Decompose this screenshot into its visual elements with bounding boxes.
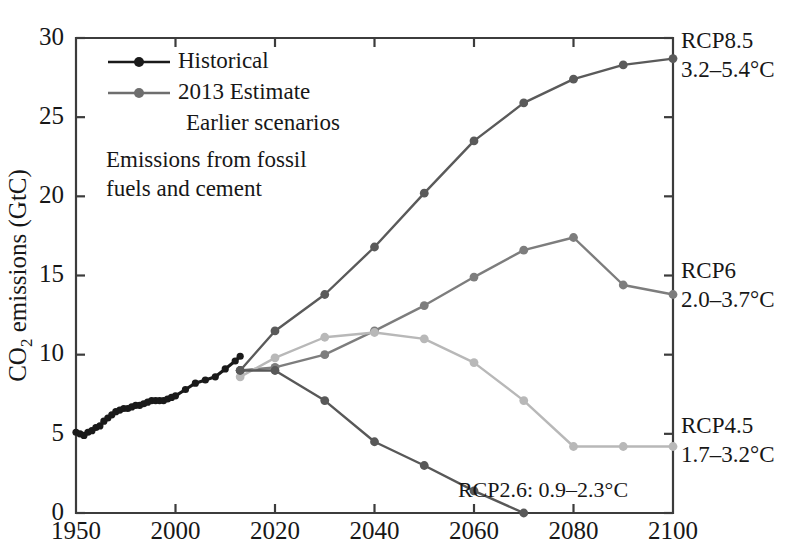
scenario-label-name: RCP4.5 [681,413,753,438]
series-historical [72,353,243,439]
data-point [420,189,429,198]
data-point [192,380,199,387]
data-point [569,233,578,242]
data-point [669,54,678,63]
data-point [669,442,678,451]
series-rcp4-5 [236,328,678,451]
data-point [619,281,628,290]
y-tick-label: 20 [39,181,64,208]
series-line [240,238,673,371]
data-point [420,461,429,470]
data-point [320,333,329,342]
annotation-emissions-source: Emissions from fossilfuels and cement [106,147,307,201]
y-axis-title: CO2 emissions (GtC) [4,169,36,382]
chart-figure: 0510152025301950200020202040206020802100… [0,0,797,554]
data-point [320,290,329,299]
legend-label: 2013 Estimate [178,79,310,104]
co2-emissions-line-chart: 0510152025301950200020202040206020802100… [0,0,797,554]
legend-label: Earlier scenarios [186,110,340,135]
scenario-label-range: 1.7–3.2°C [681,442,775,467]
series-group [72,54,677,517]
y-axis: 051015202530 [39,23,673,525]
data-point [236,366,245,375]
data-point [569,442,578,451]
x-tick-label: 2000 [151,517,201,544]
data-point [619,442,628,451]
y-tick-label: 30 [39,23,64,50]
x-axis: 1950200020202040206020802100 [51,38,698,544]
data-point [182,386,189,393]
x-tick-label: 2040 [350,517,400,544]
annotation-line-1: Emissions from fossil [106,147,307,172]
data-point [519,246,528,255]
data-point [212,373,219,380]
data-point [320,350,329,359]
data-point [470,273,479,282]
scenario-label-range: 2.0–3.7°C [681,287,775,312]
annotation-line-2: fuels and cement [106,176,262,201]
data-point [669,290,678,299]
data-point [519,396,528,405]
scenario-labels: RCP8.53.2–5.4°CRCP62.0–3.7°CRCP4.51.7–3.… [681,28,775,467]
data-point [569,75,578,84]
legend-label: Historical [178,48,269,73]
legend: Historical2013 EstimateEarlier scenarios [108,48,340,135]
data-point [519,99,528,108]
legend-swatch-marker [134,88,144,98]
x-tick-label: 1950 [51,517,101,544]
y-tick-label: 15 [39,260,64,287]
data-point [271,366,280,375]
data-point [237,353,244,360]
x-tick-label: 2020 [250,517,300,544]
data-point [519,509,528,518]
legend-swatch-marker [134,57,144,67]
data-point [271,327,280,336]
x-tick-label: 2060 [449,517,499,544]
data-point [420,334,429,343]
data-point [470,137,479,146]
data-point [320,396,329,405]
data-point [202,376,209,383]
data-point [420,301,429,310]
data-point [370,437,379,446]
y-tick-label: 25 [39,102,64,129]
y-axis-title-text: CO2 emissions (GtC) [4,169,36,382]
scenario-label-range: 3.2–5.4°C [681,57,775,82]
x-tick-label: 2080 [549,517,599,544]
data-point [271,353,280,362]
scenario-label-rcp26: RCP2.6: 0.9–2.3°C [458,477,628,502]
series-line [240,59,673,371]
scenario-label-name: RCP6 [681,258,736,283]
data-point [370,243,379,252]
y-tick-label: 5 [52,419,65,446]
scenario-label-name: RCP8.5 [681,28,753,53]
data-point [222,365,229,372]
data-point [370,328,379,337]
data-point [470,358,479,367]
data-point [172,392,179,399]
data-point [619,61,628,70]
y-tick-label: 10 [39,339,64,366]
x-tick-label: 2100 [648,517,698,544]
